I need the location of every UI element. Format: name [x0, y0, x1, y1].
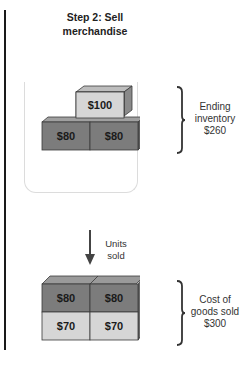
label-line: sold	[98, 250, 134, 262]
label-line: $260	[186, 125, 244, 137]
label-line: goods sold	[186, 306, 244, 318]
label-line: Cost of	[186, 294, 244, 306]
ending-inventory-label: Ending inventory $260	[186, 101, 244, 137]
cogs-box-80-left: $80	[42, 284, 90, 312]
inventory-box-80-left: $80	[42, 122, 90, 150]
box-value: $80	[57, 292, 75, 304]
box-value: $70	[105, 320, 123, 332]
label-line: Ending	[186, 101, 244, 113]
box-value: $100	[88, 99, 112, 111]
step-title: Step 2: Sell merchandise	[40, 10, 150, 38]
cogs-box-70-left: $70	[42, 312, 90, 340]
label-line: inventory	[186, 113, 244, 125]
brace-cost-of-goods-sold	[176, 280, 186, 346]
box-value: $80	[57, 130, 75, 142]
box-value: $80	[105, 292, 123, 304]
units-sold-label: Units sold	[98, 238, 134, 262]
inventory-box-80-right: $80	[90, 122, 138, 150]
label-line: $300	[186, 318, 244, 330]
cogs-box-80-right: $80	[90, 284, 138, 312]
down-arrow-icon	[84, 230, 96, 266]
cogs-box-70-right: $70	[90, 312, 138, 340]
left-divider-line	[4, 10, 6, 350]
brace-ending-inventory	[176, 86, 186, 154]
inventory-box-100: $100	[76, 92, 124, 118]
box-value: $70	[57, 320, 75, 332]
box-value: $80	[105, 130, 123, 142]
cost-of-goods-sold-label: Cost of goods sold $300	[186, 294, 244, 330]
label-line: Units	[98, 238, 134, 250]
